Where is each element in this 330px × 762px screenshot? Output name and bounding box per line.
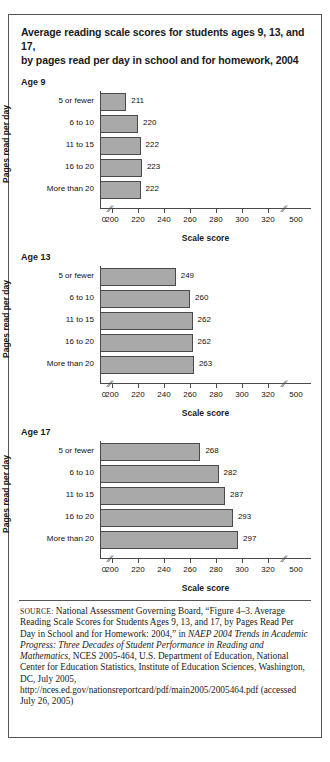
category-label: 16 to 20 [15,512,94,521]
bar [100,268,176,286]
category-label: 6 to 10 [15,293,94,302]
x-axis-tick [216,559,217,563]
bar [100,334,193,352]
bar-row: More than 20297 [15,531,315,551]
x-axis-tick-label: 220 [131,565,144,574]
y-axis-title: Pages read per day [1,439,13,549]
x-axis-title: Scale score [100,233,311,243]
x-axis-tick-label: 500 [289,215,302,224]
bar-value-label: 263 [199,359,212,368]
category-label: More than 20 [15,359,94,368]
x-axis-tick-label: 280 [209,215,222,224]
bar-value-label: 268 [205,446,218,455]
x-axis-tick-label: 240 [157,390,170,399]
x-axis-tick [268,209,269,213]
x-axis-tick-label: 240 [157,565,170,574]
x-axis-line [100,558,311,559]
plot-area: Pages read per day5 or fewer2496 to 1026… [15,264,315,404]
bar-value-label: 262 [198,315,211,324]
bar-row: 11 to 15287 [15,487,315,507]
x-axis-tick [216,209,217,213]
y-axis-line [100,91,101,209]
bar-value-label: 282 [224,468,237,477]
x-axis-tick-label: 280 [209,390,222,399]
bar [100,181,141,199]
panel-title: Age 9 [15,71,315,87]
chart-panel-age-17: Age 17Pages read per day5 or fewer2686 t… [15,421,315,596]
x-axis-tick-label: 200 [105,215,118,224]
x-axis-tick-label: 320 [261,390,274,399]
bar-row: 16 to 20262 [15,334,315,354]
bar [100,531,238,549]
x-axis-tick [268,384,269,388]
category-label: 11 to 15 [15,315,94,324]
category-label: 5 or fewer [15,446,94,455]
category-label: More than 20 [15,184,94,193]
bar-row: 5 or fewer249 [15,268,315,288]
y-axis-title: Pages read per day [1,89,13,199]
category-label: 5 or fewer [15,96,94,105]
bar [100,115,138,133]
bar [100,509,233,527]
figure-title-line-2: by pages read per day in school and for … [21,53,309,67]
bar-value-label: 223 [147,162,160,171]
chart-panel-age-13: Age 13Pages read per day5 or fewer2496 t… [15,246,315,421]
x-axis-tick [268,559,269,563]
x-axis-tick-label: 220 [131,215,144,224]
figure-title-line-1: Average reading scale scores for student… [21,25,309,53]
x-axis-tick [164,559,165,563]
x-axis-tick-label: 220 [131,390,144,399]
x-axis-tick [190,559,191,563]
category-label: 11 to 15 [15,140,94,149]
x-axis-tick [242,384,243,388]
bar-value-label: 222 [146,140,159,149]
bar-group: 5 or fewer2496 to 1026011 to 1526216 to … [15,268,315,382]
bar [100,465,219,483]
figure-container: Average reading scale scores for student… [8,14,322,738]
plot-area: Pages read per day5 or fewer2686 to 1028… [15,439,315,579]
x-axis-tick-label: 260 [183,390,196,399]
x-axis-tick [138,209,139,213]
x-axis-line [100,383,311,384]
x-axis-tick [190,209,191,213]
x-axis-tick [138,384,139,388]
x-axis-title: Scale score [100,583,311,593]
x-axis-tick-label: 500 [289,390,302,399]
x-axis-tick-label: 240 [157,215,170,224]
bar [100,290,190,308]
y-axis-title: Pages read per day [1,264,13,374]
source-label: SOURCE: [20,607,53,616]
x-axis-tick-label: 300 [235,565,248,574]
chart-panels: Age 9Pages read per day5 or fewer2116 to… [9,71,321,596]
x-axis-tick-label: 260 [183,565,196,574]
bar [100,443,200,461]
x-axis-title: Scale score [100,408,311,418]
bar [100,312,193,330]
bar-row: More than 20263 [15,356,315,376]
x-axis-tick [138,559,139,563]
x-axis-tick-label: 500 [289,565,302,574]
x-axis-tick-label: 200 [105,565,118,574]
x-axis-tick [164,209,165,213]
bar [100,93,126,111]
bar-row: 5 or fewer211 [15,93,315,113]
x-axis-tick-label: 300 [235,390,248,399]
category-label: 16 to 20 [15,162,94,171]
bar-row: 6 to 10220 [15,115,315,135]
x-axis-tick-label: 200 [105,390,118,399]
bar-value-label: 260 [195,293,208,302]
bar-group: 5 or fewer2116 to 1022011 to 1522216 to … [15,93,315,207]
bar-row: 5 or fewer268 [15,443,315,463]
x-axis-tick-label: 320 [261,565,274,574]
bar [100,137,141,155]
x-axis-tick [216,384,217,388]
bar [100,159,142,177]
plot-area: Pages read per day5 or fewer2116 to 1022… [15,89,315,229]
bar-group: 5 or fewer2686 to 1028211 to 1528716 to … [15,443,315,557]
category-label: 11 to 15 [15,490,94,499]
x-axis-tick-label: 260 [183,215,196,224]
x-axis-tick [164,384,165,388]
bar-value-label: 249 [181,271,194,280]
x-axis-tick [242,209,243,213]
bar-row: 16 to 20223 [15,159,315,179]
